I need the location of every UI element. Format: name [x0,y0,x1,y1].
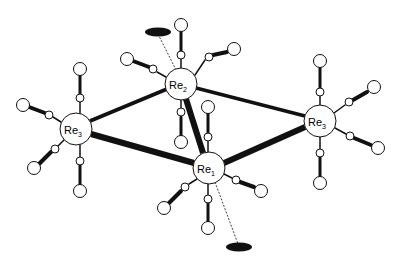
molecular-diagram: Re2 Re1 Re3 Re3 [0,0,400,265]
re3-right-label: Re [308,116,322,128]
thermal-ellipsoid-bottom [226,243,252,252]
re3-right-atom: Re3 [304,105,336,137]
bond-re2-re1 [186,99,203,153]
re1-label: Re [197,163,211,175]
re2-atom: Re2 [165,68,197,100]
re3-right-sub: 3 [322,123,326,130]
bond-re1-re3right [224,127,305,163]
re1-sub: 1 [211,170,215,177]
re1-atom: Re1 [193,152,225,184]
re3-left-label: Re [64,124,78,136]
re2-sub: 2 [183,86,187,93]
re2-label: Re [169,79,183,91]
metal-bonds [90,88,305,163]
re3-left-sub: 3 [78,131,82,138]
thermal-ellipsoid-top [145,28,171,37]
bond-re3left-re2 [90,89,167,121]
re3-left-atom: Re3 [60,113,92,145]
